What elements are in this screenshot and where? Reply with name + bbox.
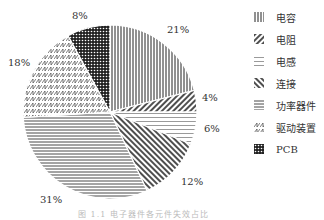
pct-label-connection: 12% bbox=[181, 176, 203, 187]
backslash-lines-swatch-icon bbox=[254, 34, 264, 44]
pct-label-inductor: 6% bbox=[204, 123, 220, 134]
zigzag-swatch-icon bbox=[254, 122, 264, 132]
pct-label-power-device: 31% bbox=[40, 194, 62, 205]
legend-item-connection: 连接 bbox=[254, 72, 316, 94]
pct-label-resistor: 4% bbox=[202, 92, 218, 103]
vertical-lines-swatch-icon bbox=[254, 12, 264, 22]
legend-item-driver: 驱动装置 bbox=[254, 116, 316, 138]
legend-label: 电阻 bbox=[276, 32, 296, 47]
pct-label-driver: 18% bbox=[8, 57, 30, 68]
chart-legend: 电容 电阻 电感 连接 功率器件 驱动装置 PCB bbox=[254, 6, 316, 160]
legend-item-resistor: 电阻 bbox=[254, 28, 316, 50]
legend-label: 连接 bbox=[276, 76, 296, 91]
legend-label: 功率器件 bbox=[276, 98, 316, 113]
legend-label: 电感 bbox=[276, 54, 296, 69]
figure-caption: 图 1.1 电子器件各元件失效占比 bbox=[78, 208, 209, 219]
waves-swatch-icon bbox=[254, 56, 264, 66]
checkered-swatch-icon bbox=[254, 144, 264, 154]
forward-slash-lines-swatch-icon bbox=[254, 78, 264, 88]
legend-item-inductor: 电感 bbox=[254, 50, 316, 72]
legend-label: PCB bbox=[276, 144, 298, 155]
pct-label-pcb: 8% bbox=[72, 10, 88, 21]
legend-item-power-device: 功率器件 bbox=[254, 94, 316, 116]
pct-label-capacitor: 21% bbox=[167, 24, 189, 35]
legend-item-capacitor: 电容 bbox=[254, 6, 316, 28]
horizontal-lines-swatch-icon bbox=[254, 100, 264, 110]
legend-item-pcb: PCB bbox=[254, 138, 316, 160]
legend-label: 电容 bbox=[276, 10, 296, 25]
legend-label: 驱动装置 bbox=[276, 120, 316, 135]
